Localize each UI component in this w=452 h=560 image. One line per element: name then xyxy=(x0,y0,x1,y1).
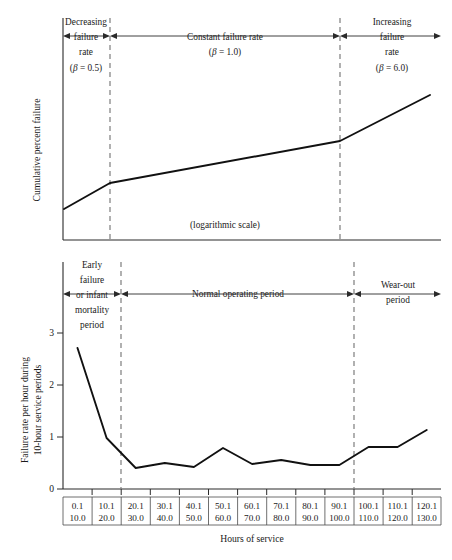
xaxis-value-table: 0.1 10.1 20.1 30.1 40.1 50.1 60.1 70.1 8… xyxy=(63,497,441,544)
xaxis-bottom-cell-11: 120.0 xyxy=(387,513,408,523)
xaxis-top-cell-8: 80.1 xyxy=(302,501,318,511)
top-chart: Cumulative percent failure Decreasing fa… xyxy=(31,17,441,240)
bottom-chart-ylabel-line2: 10-hour service periods xyxy=(32,364,43,455)
xaxis-bottom-cell-10: 110.0 xyxy=(359,513,379,523)
bottom-ytick-2: 2 xyxy=(49,379,54,390)
top-phase-increasing-beta: (β = 6.0) xyxy=(376,63,408,74)
xaxis-bottom-cell-1: 20.0 xyxy=(99,513,115,523)
xaxis-bottom-cell-4: 50.0 xyxy=(186,513,202,523)
xaxis-top-cell-5: 50.1 xyxy=(215,501,231,511)
xaxis-top-cell-2: 20.1 xyxy=(128,501,144,511)
xaxis-top-cell-10: 100.1 xyxy=(358,501,379,511)
bottom-ytick-0: 0 xyxy=(49,483,54,494)
bottom-phase-wearout-line-0: Wear-out xyxy=(381,280,416,290)
top-phase-decreasing-line-2: rate xyxy=(79,47,93,57)
bottom-phase-wearout-line-1: period xyxy=(386,295,410,305)
top-chart-ylabel: Cumulative percent failure xyxy=(31,99,42,202)
bottom-phase-early-line-4: period xyxy=(80,320,104,330)
figure-canvas: Cumulative percent failure Decreasing fa… xyxy=(0,0,452,560)
bottom-chart-data-line xyxy=(78,348,427,468)
bottom-chart-ylabel-line1: Failure rate per hour during xyxy=(19,357,30,463)
top-phase-decreasing: Decreasing failure rate (β = 0.5) xyxy=(65,17,107,74)
top-phase-decreasing-beta: (β = 0.5) xyxy=(70,63,102,74)
top-phase-increasing-line-0: Increasing xyxy=(373,17,412,27)
xaxis-top-cell-3: 30.1 xyxy=(157,501,173,511)
top-chart-data-line xyxy=(64,95,430,209)
bottom-ytick-3: 3 xyxy=(49,327,54,338)
top-phase-increasing-line-2: rate xyxy=(385,47,399,57)
xaxis-bottom-cell-8: 90.0 xyxy=(302,513,318,523)
xaxis-title: Hours of service xyxy=(220,533,283,544)
xaxis-top-cell-0: 0.1 xyxy=(72,501,84,511)
bottom-chart-yticks: 0 1 2 3 xyxy=(49,327,63,494)
bottom-chart: Failure rate per hour during 10-hour ser… xyxy=(19,260,441,495)
bottom-phase-early-line-0: Early xyxy=(82,260,102,270)
xaxis-top-cell-12: 120.1 xyxy=(416,501,437,511)
top-phase-constant-beta: (β = 1.0) xyxy=(209,47,241,58)
xaxis-bottom-cell-2: 30.0 xyxy=(128,513,144,523)
reliability-figure: Cumulative percent failure Decreasing fa… xyxy=(0,0,452,560)
top-chart-log-scale-note: (logarithmic scale) xyxy=(190,220,260,231)
bottom-ytick-1: 1 xyxy=(49,431,54,442)
bottom-phase-early-failure: Early failure or infant mortality period xyxy=(75,260,109,330)
xaxis-table-bottom-row: 10.0 20.0 30.0 40.0 50.0 60.0 70.0 80.0 … xyxy=(69,513,437,523)
bottom-phase-early-line-2: or infant xyxy=(76,290,108,300)
xaxis-bottom-cell-5: 60.0 xyxy=(215,513,231,523)
xaxis-bottom-cell-0: 10.0 xyxy=(69,513,85,523)
bottom-chart-xticks xyxy=(92,489,412,495)
top-phase-increasing: Increasing failure rate (β = 6.0) xyxy=(373,17,412,74)
top-phase-decreasing-line-1: failure xyxy=(74,32,98,42)
xaxis-top-cell-7: 70.1 xyxy=(273,501,289,511)
bottom-phase-early-line-3: mortality xyxy=(75,305,109,315)
xaxis-bottom-cell-9: 100.0 xyxy=(329,513,350,523)
xaxis-top-cell-1: 10.1 xyxy=(99,501,115,511)
bottom-phase-wear-out: Wear-out period xyxy=(381,280,416,305)
top-phase-constant-line-0: Constant failure rate xyxy=(187,32,263,42)
xaxis-bottom-cell-7: 80.0 xyxy=(273,513,289,523)
xaxis-top-cell-6: 60.1 xyxy=(244,501,260,511)
xaxis-top-cell-4: 40.1 xyxy=(186,501,202,511)
top-phase-decreasing-line-0: Decreasing xyxy=(65,17,107,27)
top-phase-increasing-line-1: failure xyxy=(380,32,404,42)
xaxis-bottom-cell-3: 40.0 xyxy=(157,513,173,523)
xaxis-top-cell-11: 110.1 xyxy=(387,501,408,511)
xaxis-bottom-cell-12: 130.0 xyxy=(417,513,438,523)
bottom-phase-early-line-1: failure xyxy=(80,275,104,285)
xaxis-table-top-row: 0.1 10.1 20.1 30.1 40.1 50.1 60.1 70.1 8… xyxy=(72,501,438,511)
xaxis-bottom-cell-6: 70.0 xyxy=(244,513,260,523)
xaxis-top-cell-9: 90.1 xyxy=(331,501,347,511)
